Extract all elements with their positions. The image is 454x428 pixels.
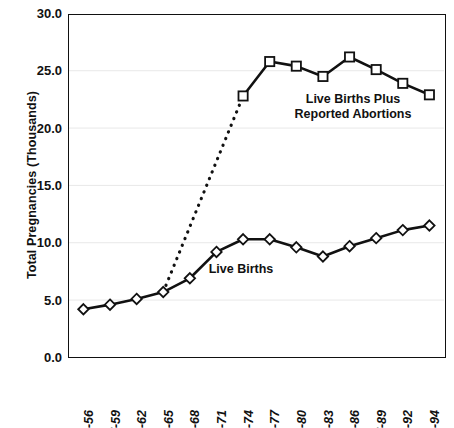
chart-svg: [69, 15, 444, 356]
x-tick-label: 75-77: [267, 410, 283, 426]
data-point-marker-diamond: [105, 299, 115, 309]
x-tick-label: 78-80: [294, 410, 310, 426]
x-tick-label: 81-83: [321, 410, 337, 426]
series-label-lower: Live Births: [186, 262, 296, 277]
data-point-marker-diamond: [371, 233, 381, 243]
x-tick-label: 60-62: [134, 410, 150, 426]
x-tick-label: 93-94: [427, 410, 443, 426]
data-point-marker-diamond: [131, 294, 141, 304]
series-label-upper: Live Births Plus Reported Abortions: [268, 92, 438, 122]
data-point-marker-square: [345, 52, 354, 61]
data-point-marker-diamond: [291, 242, 301, 252]
x-tick-label: 69-71: [214, 410, 230, 426]
data-point-marker-square: [372, 65, 381, 74]
data-point-marker-square: [265, 57, 274, 66]
data-point-marker-diamond: [398, 225, 408, 235]
x-tick-label: 90-92: [400, 410, 416, 426]
y-tick-label: 15.0: [10, 179, 62, 192]
data-point-marker-diamond: [424, 220, 434, 230]
chart-container: Total Pregnancies (Thousands) 0.05.010.0…: [0, 0, 454, 428]
x-axis: 55-5657-5960-6263-6566-6869-7172-7475-77…: [68, 360, 446, 428]
data-point-marker-square: [238, 91, 247, 100]
data-point-marker-square: [398, 79, 407, 88]
x-tick-label: 57-59: [108, 410, 124, 426]
x-tick-label: 66-68: [187, 410, 203, 426]
data-point-marker-diamond: [318, 251, 328, 261]
x-tick-label: 72-74: [241, 410, 257, 426]
data-point-marker-diamond: [78, 304, 88, 314]
y-tick-label: 25.0: [10, 64, 62, 77]
x-tick-label: 63-65: [161, 410, 177, 426]
y-tick-label: 30.0: [10, 7, 62, 20]
data-point-marker-square: [318, 72, 327, 81]
data-point-marker-diamond: [158, 287, 168, 297]
y-tick-label: 5.0: [10, 294, 62, 307]
x-tick-label: 84-86: [347, 410, 363, 426]
x-tick-label: 87-89: [374, 410, 390, 426]
y-axis: Total Pregnancies (Thousands) 0.05.010.0…: [0, 0, 62, 428]
y-tick-label: 10.0: [10, 236, 62, 249]
y-tick-label: 0.0: [10, 351, 62, 364]
plot-area: [68, 14, 446, 358]
y-tick-label: 20.0: [10, 122, 62, 135]
x-tick-label: 55-56: [81, 410, 97, 426]
data-point-marker-square: [292, 62, 301, 71]
